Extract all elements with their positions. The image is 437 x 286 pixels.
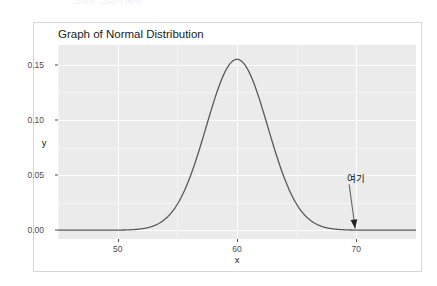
normal-distribution-curve [58, 45, 416, 239]
y-axis-label-text: y [42, 137, 47, 148]
plot-panel: 여기 [58, 45, 416, 239]
x-tick-mark [237, 239, 238, 242]
x-axis-ticks: 506070 [58, 239, 416, 255]
annotation-label: 여기 [347, 171, 365, 185]
curve-path [58, 59, 416, 230]
x-tick-label: 70 [336, 244, 376, 254]
x-tick-label: 50 [98, 244, 138, 254]
x-tick-label: 60 [217, 244, 257, 254]
chart-card: Graph of Normal Distribution 0.000.050.1… [33, 22, 422, 272]
cut-off-top-text-label: 그래프 그리기 예제 [72, 0, 141, 7]
x-tick-mark [118, 239, 119, 242]
y-axis-label: y [38, 45, 50, 239]
x-tick-mark [356, 239, 357, 242]
chart-title: Graph of Normal Distribution [58, 28, 204, 40]
annotation-arrow-head [351, 219, 358, 228]
cut-off-top-text: 그래프 그리기 예제 [0, 0, 437, 11]
x-axis-label: x [58, 254, 416, 265]
